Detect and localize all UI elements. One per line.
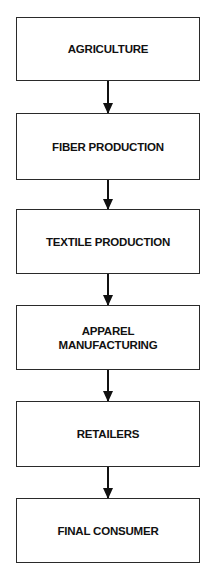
node-agriculture: AGRICULTURE [16, 17, 200, 81]
node-textile-production: TEXTILE PRODUCTION [16, 209, 200, 274]
arrow-down-icon [107, 274, 109, 305]
node-label: RETAILERS [77, 427, 140, 441]
arrow-down-icon [107, 467, 109, 498]
node-retailers: RETAILERS [16, 401, 200, 467]
arrow-down-icon [107, 370, 109, 401]
node-label: FINAL CONSUMER [57, 524, 158, 538]
arrow-down-icon [107, 81, 109, 113]
node-label: AGRICULTURE [68, 42, 149, 56]
node-final-consumer: FINAL CONSUMER [16, 498, 200, 563]
node-fiber-production: FIBER PRODUCTION [16, 113, 200, 180]
node-apparel-manufacturing: APPAREL MANUFACTURING [16, 305, 200, 370]
arrow-down-icon [107, 180, 109, 209]
node-label: TEXTILE PRODUCTION [46, 235, 170, 249]
node-label: FIBER PRODUCTION [52, 140, 164, 154]
node-label: APPAREL MANUFACTURING [59, 324, 158, 352]
